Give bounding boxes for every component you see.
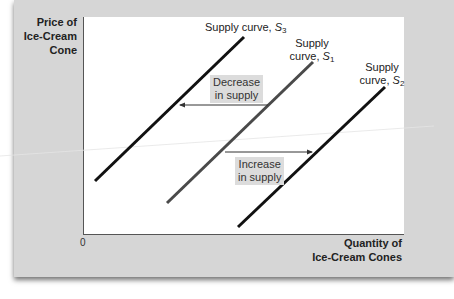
label-s1: Supply curve, S1 bbox=[288, 37, 336, 66]
box-text: Decrease bbox=[213, 76, 260, 89]
box-text: in supply bbox=[213, 89, 260, 102]
label-subscript: 2 bbox=[400, 79, 404, 88]
label-subscript: 1 bbox=[330, 55, 334, 64]
decrease-in-supply-box: Decrease in supply bbox=[210, 75, 263, 103]
label-symbol: S bbox=[275, 21, 282, 33]
label-subscript: 3 bbox=[282, 26, 286, 35]
label-text: Supply bbox=[358, 61, 406, 74]
label-text: curve, bbox=[290, 50, 323, 62]
label-text: Supply curve, bbox=[205, 21, 275, 33]
label-text: curve, bbox=[360, 74, 393, 86]
scan-artifact-line bbox=[0, 126, 434, 156]
box-text: in supply bbox=[238, 171, 281, 184]
box-text: Increase bbox=[238, 158, 281, 171]
label-text: Supply bbox=[288, 37, 336, 50]
supply-curve-s3 bbox=[95, 37, 244, 181]
increase-in-supply-box: Increase in supply bbox=[235, 157, 284, 185]
label-s3: Supply curve, S3 bbox=[205, 21, 287, 37]
label-s2: Supply curve, S2 bbox=[358, 61, 406, 90]
label-symbol: S bbox=[323, 50, 330, 62]
label-symbol: S bbox=[393, 74, 400, 86]
